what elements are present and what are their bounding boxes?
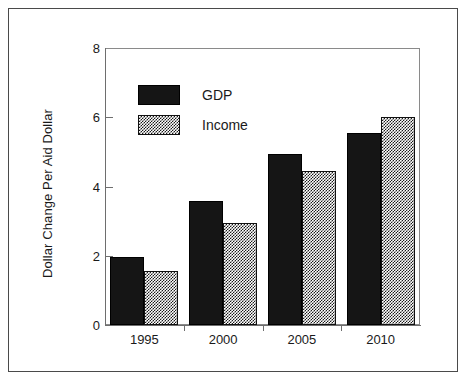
bar-gdp-1995[interactable]	[110, 257, 144, 325]
chart-legend: GDP Income	[138, 80, 248, 140]
legend-swatch-gdp-icon	[138, 85, 180, 105]
x-tick-mark	[184, 325, 185, 331]
bar-gdp-2010[interactable]	[347, 133, 381, 325]
x-tick-mark	[263, 325, 264, 331]
bar-income-1995[interactable]	[144, 271, 178, 325]
x-tick-label: 2010	[341, 332, 421, 347]
y-tick-mark	[105, 117, 113, 118]
y-tick-mark	[105, 187, 113, 188]
x-tick-mark	[341, 325, 342, 331]
y-tick-label: 4	[66, 179, 100, 194]
y-tick-label: 2	[66, 248, 100, 263]
legend-label-income: Income	[202, 117, 248, 133]
y-axis-ticks: 02468	[0, 0, 100, 382]
y-tick-label: 0	[66, 318, 100, 333]
bar-income-2010[interactable]	[381, 117, 415, 325]
figure-container: Dollar Change Per Aid Dollar 02468 19952…	[0, 0, 468, 382]
bar-income-2005[interactable]	[302, 171, 336, 325]
legend-item-income[interactable]: Income	[138, 110, 248, 140]
y-tick-label: 6	[66, 110, 100, 125]
x-tick-label: 1995	[104, 332, 184, 347]
y-tick-label: 8	[66, 41, 100, 56]
bar-gdp-2000[interactable]	[189, 201, 223, 325]
x-tick-label: 2000	[183, 332, 263, 347]
legend-item-gdp[interactable]: GDP	[138, 80, 248, 110]
legend-label-gdp: GDP	[202, 87, 232, 103]
bar-income-2000[interactable]	[223, 223, 257, 325]
legend-swatch-income-icon	[138, 115, 180, 135]
y-tick-mark	[105, 256, 113, 257]
x-tick-label: 2005	[262, 332, 342, 347]
bar-gdp-2005[interactable]	[268, 154, 302, 325]
